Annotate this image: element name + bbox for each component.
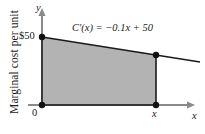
point-origin bbox=[39, 102, 45, 108]
point-curve-at-x bbox=[153, 52, 159, 58]
plot-canvas bbox=[0, 0, 205, 134]
point-y-intercept bbox=[39, 34, 45, 40]
y-axis-variable-label: y bbox=[36, 2, 41, 13]
shaded-area-under-curve bbox=[42, 37, 156, 105]
marginal-cost-figure: Marginal cost per unit y x $50 0 x C′(x)… bbox=[0, 0, 205, 134]
equation-annotation: C′(x) = −0.1x + 50 bbox=[72, 22, 153, 33]
y-intercept-tick-label: $50 bbox=[19, 30, 35, 41]
y-axis-title: Marginal cost per unit bbox=[8, 10, 20, 114]
x-tick-label: x bbox=[152, 108, 157, 119]
x-axis-variable-label: x bbox=[192, 110, 197, 121]
origin-tick-label: 0 bbox=[32, 107, 37, 118]
